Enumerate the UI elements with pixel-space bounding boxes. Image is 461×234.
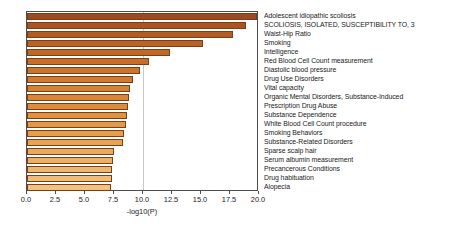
bar: [27, 130, 124, 137]
bar-row: [27, 138, 257, 147]
x-tick-mark: [26, 191, 27, 194]
x-tick-mark: [229, 191, 230, 194]
x-tick-label: 0.0: [21, 195, 31, 204]
category-label: Organic Mental Disorders, Substance-Indu…: [264, 92, 403, 101]
x-axis: 0.02.55.07.510.012.515.017.520.0: [26, 191, 258, 221]
bar: [27, 148, 114, 155]
bar-row: [27, 174, 257, 183]
bar: [27, 139, 123, 146]
bars-container: [27, 12, 257, 190]
bar-chart-figure: Adolescent idiopathic scoliosisSCOLIOSIS…: [0, 0, 461, 234]
bar: [27, 22, 246, 29]
category-labels: Adolescent idiopathic scoliosisSCOLIOSIS…: [264, 11, 460, 191]
x-axis-title: -log10(P): [26, 207, 258, 216]
bar: [27, 31, 233, 38]
category-label: Sparse scalp hair: [264, 146, 316, 155]
bar: [27, 67, 140, 74]
bar-row: [27, 12, 257, 21]
category-label: Drug habituation: [264, 173, 314, 182]
category-label: Waist-Hip Ratio: [264, 29, 311, 38]
bar: [27, 85, 130, 92]
x-tick-label: 2.5: [50, 195, 60, 204]
x-tick-mark: [84, 191, 85, 194]
category-label: Vital capacity: [264, 83, 304, 92]
bar-row: [27, 111, 257, 120]
bar-row: [27, 156, 257, 165]
bar-row: [27, 93, 257, 102]
category-label: Alopecia: [264, 182, 290, 191]
x-tick-mark: [55, 191, 56, 194]
bar-row: [27, 84, 257, 93]
category-label: Serum albumin measurement: [264, 155, 353, 164]
category-label: White Blood Cell Count procedure: [264, 119, 367, 128]
category-label: Red Blood Cell Count measurement: [264, 56, 373, 65]
bar: [27, 13, 257, 20]
x-tick-label: 20.0: [251, 195, 265, 204]
bar: [27, 175, 112, 182]
bar: [27, 157, 113, 164]
category-label: Substance-Related Disorders: [264, 137, 353, 146]
category-label: Drug Use Disorders: [264, 74, 324, 83]
bar: [27, 166, 112, 173]
category-label: Precancerous Conditions: [264, 164, 340, 173]
bar-row: [27, 120, 257, 129]
category-label: SCOLIOSIS, ISOLATED, SUSCEPTIBILITY TO, …: [264, 20, 415, 29]
bar: [27, 76, 133, 83]
bar-row: [27, 48, 257, 57]
x-tick-label: 5.0: [79, 195, 89, 204]
x-tick-label: 17.5: [222, 195, 236, 204]
x-tick-label: 7.5: [108, 195, 118, 204]
x-tick-mark: [142, 191, 143, 194]
bar: [27, 112, 127, 119]
plot-area: [26, 11, 258, 191]
x-tick-mark: [113, 191, 114, 194]
category-label: Intelligence: [264, 47, 298, 56]
bar-row: [27, 21, 257, 30]
bar-row: [27, 30, 257, 39]
x-tick-mark: [200, 191, 201, 194]
bar-row: [27, 39, 257, 48]
category-label: Smoking: [264, 38, 290, 47]
bar-row: [27, 102, 257, 111]
x-tick-mark: [258, 191, 259, 194]
category-label: Diastolic blood pressure: [264, 65, 336, 74]
x-tick-mark: [171, 191, 172, 194]
bar-row: [27, 165, 257, 174]
category-label: Adolescent idiopathic scoliosis: [264, 11, 356, 20]
bar: [27, 184, 111, 191]
x-tick-label: 12.5: [164, 195, 178, 204]
bar-row: [27, 75, 257, 84]
category-label: Smoking Behaviors: [264, 128, 323, 137]
x-tick-label: 15.0: [193, 195, 207, 204]
bar: [27, 49, 170, 56]
bar-row: [27, 66, 257, 75]
category-label: Prescription Drug Abuse: [264, 101, 337, 110]
bar-row: [27, 147, 257, 156]
category-label: Substance Dependence: [264, 110, 337, 119]
bar: [27, 94, 129, 101]
bar: [27, 121, 126, 128]
bar-row: [27, 57, 257, 66]
bar: [27, 103, 128, 110]
bar-row: [27, 129, 257, 138]
bar: [27, 40, 203, 47]
x-tick-label: 10.0: [135, 195, 149, 204]
bar: [27, 58, 149, 65]
